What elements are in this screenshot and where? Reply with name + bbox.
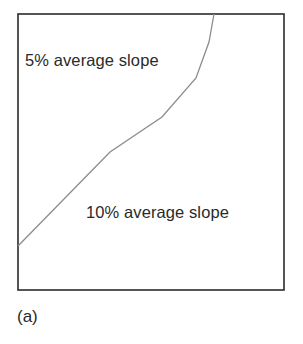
region-label-10-percent: 10% average slope xyxy=(86,203,229,222)
region-label-5-percent: 5% average slope xyxy=(25,51,159,70)
figure-caption: (a) xyxy=(17,307,38,327)
